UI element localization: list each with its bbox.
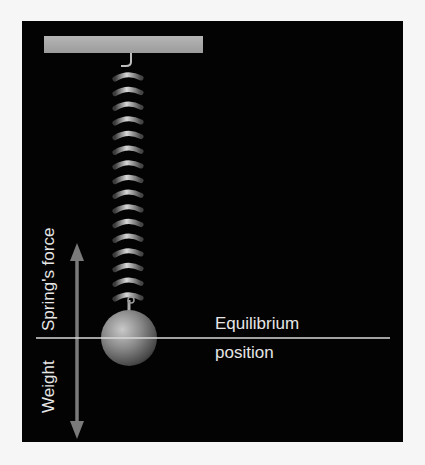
spring-coil [115,221,141,225]
spring-coil [115,119,141,123]
spring [115,75,141,299]
ceiling-bar [44,36,203,53]
spring-coil [115,207,141,211]
spring-coil [115,192,141,196]
equilibrium-label-line2: position [215,344,274,361]
spring-coil [115,177,141,181]
force-arrow [70,243,84,439]
spring-coil [115,89,141,93]
spring-mass-diagram [0,0,425,465]
spring-coil [115,236,141,240]
spring-coil [115,163,141,167]
equilibrium-label-line1: Equilibrium [215,315,299,332]
spring-coil [115,75,141,79]
spring-coil [115,133,141,137]
spring-coil [115,251,141,255]
spring-force-label: Spring's force [40,228,57,331]
weight-label: Weight [40,360,57,413]
spring-coil [115,148,141,152]
spring-coil [115,104,141,108]
arrow-down-icon [70,421,84,439]
spring-hook-top [121,53,131,66]
spring-coil [115,265,141,269]
spring-coil [115,280,141,284]
arrow-up-icon [70,243,84,261]
